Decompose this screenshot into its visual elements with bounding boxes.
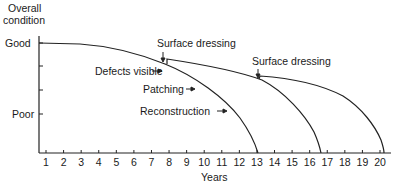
x-tick-label: 2 — [56, 157, 72, 168]
x-tick-label: 13 — [249, 157, 265, 168]
x-tick-label: 1 — [38, 157, 54, 168]
arrow-down-icon — [161, 58, 165, 62]
x-tick-label: 6 — [126, 157, 142, 168]
y-axis-label-line2: condition — [3, 15, 45, 26]
y-axis-label-line1: Overall — [8, 3, 41, 14]
annotation-surface-dressing-2: Surface dressing — [252, 56, 331, 67]
x-tick-label: 18 — [337, 157, 353, 168]
x-tick-label: 8 — [161, 157, 177, 168]
x-tick-label: 15 — [284, 157, 300, 168]
x-tick-label: 7 — [143, 157, 159, 168]
x-tick-label: 20 — [372, 157, 388, 168]
arrow-right-icon — [191, 87, 195, 91]
x-tick-label: 14 — [267, 157, 283, 168]
annotation-patching: Patching — [143, 84, 184, 95]
x-tick-label: 10 — [196, 157, 212, 168]
annotation-reconstruction: Reconstruction — [140, 106, 210, 117]
x-tick-label: 11 — [214, 157, 230, 168]
x-tick-label: 4 — [91, 157, 107, 168]
x-tick-label: 16 — [302, 157, 318, 168]
x-tick-label: 19 — [354, 157, 370, 168]
y-tick-good: Good — [5, 38, 31, 49]
annotation-surface-dressing-1: Surface dressing — [157, 38, 236, 49]
curve-base-reconstruction — [39, 43, 258, 153]
curve-surface-dressing-2 — [259, 76, 384, 153]
x-tick-label: 12 — [231, 157, 247, 168]
x-axis-label: Years — [201, 172, 227, 183]
annotation-defects-visible: Defects visible — [95, 66, 163, 77]
y-tick-poor: Poor — [12, 109, 34, 120]
x-tick-label: 9 — [179, 157, 195, 168]
x-tick-label: 17 — [319, 157, 335, 168]
arrow-right-icon — [223, 109, 227, 113]
x-tick-label: 5 — [108, 157, 124, 168]
x-tick-label: 3 — [73, 157, 89, 168]
